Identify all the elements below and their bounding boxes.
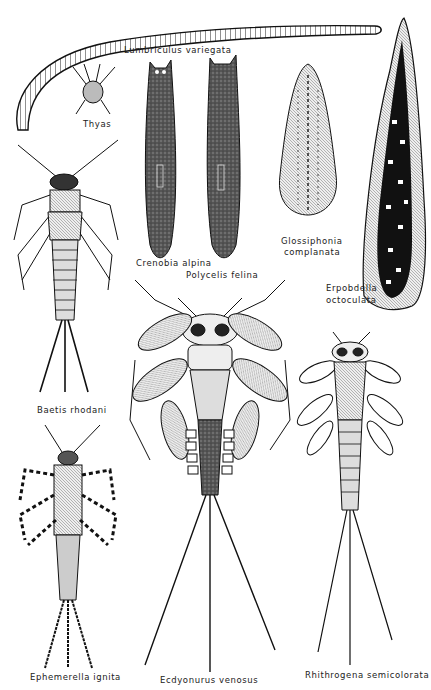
label-lumbriculus: Lumbriculus variegata xyxy=(124,45,232,55)
rhithrogena-nymph-drawing xyxy=(293,332,407,665)
label-polycelis: Polycelis felina xyxy=(186,270,258,280)
label-ecdyonurus: Ecdyonurus venosus xyxy=(160,675,258,685)
glossiphonia-leech-drawing xyxy=(279,64,336,215)
thyas-mite-drawing xyxy=(73,64,115,114)
label-crenobia: Crenobia alpina xyxy=(136,258,212,268)
label-glossiphonia-line2: complanata xyxy=(284,247,340,257)
label-ephemerella: Ephemerella ignita xyxy=(30,672,121,682)
crenobia-flatworm-drawing xyxy=(145,60,175,258)
polycelis-flatworm-drawing xyxy=(207,55,240,258)
ephemerella-nymph-drawing xyxy=(20,425,116,668)
label-erpobdella-line2: octoculata xyxy=(326,295,377,305)
erpobdella-leech-drawing xyxy=(363,18,425,310)
illustration-plate xyxy=(0,0,431,690)
label-thyas: Thyas xyxy=(83,119,111,129)
baetis-nymph-drawing xyxy=(14,140,118,392)
label-glossiphonia-line1: Glossiphonia xyxy=(281,236,343,246)
label-rhithrogena: Rhithrogena semicolorata xyxy=(305,670,429,680)
ecdyonurus-nymph-drawing xyxy=(126,280,293,672)
label-baetis: Baetis rhodani xyxy=(37,405,107,415)
label-erpobdella-line1: Erpobdella xyxy=(326,283,377,293)
